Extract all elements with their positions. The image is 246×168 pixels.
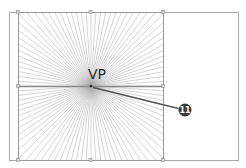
callout-number: 11 [179, 104, 192, 117]
resize-handle[interactable] [17, 11, 20, 14]
resize-handle[interactable] [89, 11, 92, 14]
perspective-diagram: VP 11 [0, 0, 246, 168]
vanishing-point-handle[interactable] [90, 85, 93, 88]
perspective-rays [0, 0, 246, 168]
resize-handle[interactable] [17, 159, 20, 162]
perspective-grid-canvas [0, 0, 246, 168]
resize-handle[interactable] [162, 159, 165, 162]
resize-handle[interactable] [162, 85, 165, 88]
vanishing-point-label: VP [88, 66, 106, 82]
resize-handle[interactable] [17, 85, 20, 88]
resize-handle[interactable] [89, 159, 92, 162]
resize-handle[interactable] [162, 11, 165, 14]
